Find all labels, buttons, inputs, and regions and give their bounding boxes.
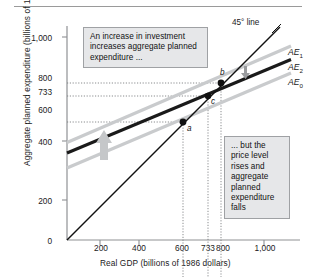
series-label-ae0: AE0 bbox=[288, 77, 303, 89]
callout-investment: An increase in investment increases aggr… bbox=[83, 27, 208, 68]
line45-label: 45° line bbox=[232, 18, 259, 27]
series-label-ae2: AE2 bbox=[288, 62, 303, 74]
y-axis-ticks bbox=[62, 37, 67, 200]
aggregate-expenditure-figure: Aggregate planned expenditure (billions … bbox=[0, 0, 309, 277]
data-point-b bbox=[218, 80, 225, 87]
point-label-b: b bbox=[220, 68, 225, 77]
x-axis-ticks bbox=[100, 240, 264, 245]
point-label-c: c bbox=[211, 97, 215, 106]
line45-leader bbox=[272, 24, 281, 33]
data-point-a bbox=[180, 119, 187, 126]
callout-price-level: ... but the price level rises and aggreg… bbox=[224, 136, 290, 219]
series-label-ae1: AE1 bbox=[288, 47, 303, 59]
point-label-a: a bbox=[187, 124, 192, 133]
